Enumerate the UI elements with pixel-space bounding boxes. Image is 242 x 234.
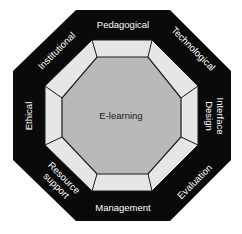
label-management: Management (95, 202, 151, 213)
label-ethical: Ethical (23, 102, 34, 131)
center-label: E-learning (99, 110, 142, 121)
label-interface: Interface (215, 98, 226, 135)
label-interface-design: Interface Design (204, 98, 226, 135)
label-pedagogical: Pedagogical (97, 19, 149, 30)
label-design: Design (204, 101, 215, 131)
e-learning-octagon-diagram: E-learning Pedagogical Technological Int… (0, 0, 242, 234)
